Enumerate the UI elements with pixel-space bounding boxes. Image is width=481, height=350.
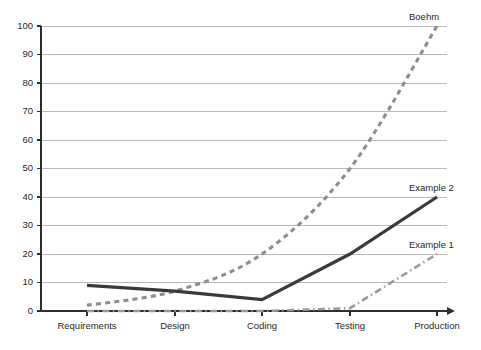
y-axis-tick-label: 70 xyxy=(22,105,33,116)
x-axis-tick-label: Production xyxy=(414,320,459,331)
x-axis-tick-label: Testing xyxy=(335,320,365,331)
y-axis-tick-label: 80 xyxy=(22,77,33,88)
y-axis-tick-label: 0 xyxy=(28,305,33,316)
y-axis-tick-label: 30 xyxy=(22,219,33,230)
y-axis-tick-label: 100 xyxy=(17,20,33,31)
y-axis-tick-label: 40 xyxy=(22,191,33,202)
y-axis-tick-label: 20 xyxy=(22,248,33,259)
cost-of-change-line-chart: 0102030405060708090100 RequirementsDesig… xyxy=(0,0,481,350)
chart-container: 0102030405060708090100 RequirementsDesig… xyxy=(0,0,481,350)
x-axis-tick-label: Design xyxy=(160,320,190,331)
series-label-example-2: Example 2 xyxy=(409,182,454,193)
x-axis-tick-label: Requirements xyxy=(57,320,116,331)
y-axis-tick-label: 90 xyxy=(22,48,33,59)
y-axis-tick-label: 50 xyxy=(22,162,33,173)
y-axis-tick-label: 60 xyxy=(22,134,33,145)
x-axis-tick-label: Coding xyxy=(247,320,277,331)
series-label-boehm: Boehm xyxy=(409,11,439,22)
y-axis-tick-label: 10 xyxy=(22,276,33,287)
series-label-example-1: Example 1 xyxy=(409,239,454,250)
